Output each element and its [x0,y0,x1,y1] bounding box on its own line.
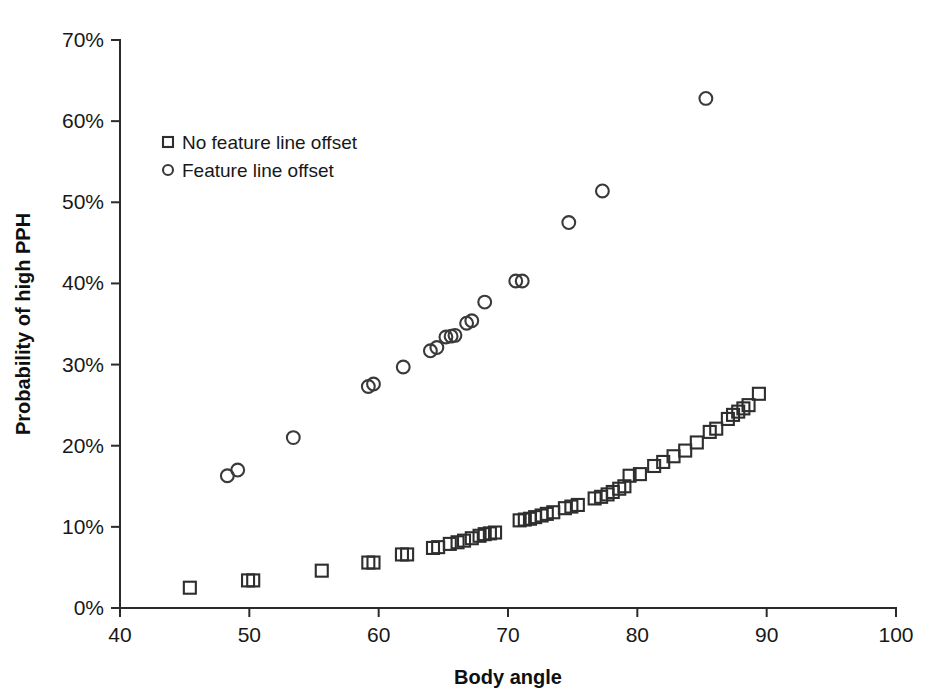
axes-group [120,40,896,608]
data-point [699,92,712,105]
axis-spine [120,40,896,608]
data-point [231,464,244,477]
data-point [316,565,328,577]
data-point [648,460,660,472]
data-point [287,431,300,444]
y-tick-label: 10% [62,515,104,538]
y-tick-label: 70% [62,28,104,51]
x-tick-label: 40 [108,623,131,646]
x-tick-label: 80 [626,623,649,646]
data-point [562,216,575,229]
x-tick-label: 100 [878,623,913,646]
y-tick-label: 40% [62,271,104,294]
y-tick-label: 0% [74,596,104,619]
data-point [596,185,609,198]
chart-legend: No feature line offsetFeature line offse… [163,132,358,181]
legend-label-0: No feature line offset [182,132,358,153]
y-tick-label: 20% [62,434,104,457]
legend-marker-square [163,137,173,147]
x-tick-label: 50 [238,623,261,646]
x-tick-label: 90 [755,623,778,646]
x-axis-ticks: 405060708090100 [108,608,913,646]
data-point [753,388,765,400]
y-tick-label: 30% [62,353,104,376]
data-point [184,582,196,594]
y-tick-label: 60% [62,109,104,132]
series-squares [184,388,765,594]
chart-figure: 405060708090100 0%10%20%30%40%50%60%70% … [0,0,944,689]
y-axis-ticks: 0%10%20%30%40%50%60%70% [62,28,120,619]
x-axis-title: Body angle [454,666,562,688]
data-point [691,436,703,448]
legend-marker-circle [163,165,173,175]
y-tick-label: 50% [62,190,104,213]
y-axis-title: Probability of high PPH [12,213,34,435]
scatter-plot-svg: 405060708090100 0%10%20%30%40%50%60%70% … [0,0,944,689]
data-point [679,445,691,457]
x-tick-label: 70 [496,623,519,646]
legend-label-1: Feature line offset [182,160,334,181]
data-point [397,361,410,374]
x-tick-label: 60 [367,623,390,646]
data-point [478,296,491,309]
